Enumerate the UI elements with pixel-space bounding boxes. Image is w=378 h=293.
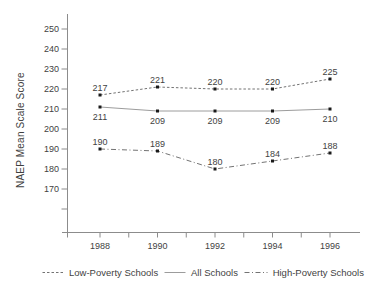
- data-point-label: 211: [93, 112, 107, 122]
- x-tick-label: 1988: [90, 241, 110, 251]
- data-point-marker: [99, 94, 102, 97]
- data-point-label: 225: [322, 67, 337, 77]
- data-point-label: 220: [207, 77, 222, 87]
- data-point-label: 220: [265, 77, 280, 87]
- data-point-marker: [214, 110, 217, 113]
- legend: Low-Poverty Schools All Schools High-Pov…: [42, 265, 364, 280]
- data-point-marker: [99, 148, 102, 151]
- data-point-marker: [329, 152, 332, 155]
- plot-area: 2502402302202102001901801701988199019921…: [0, 0, 378, 293]
- data-point-label: 189: [150, 139, 165, 149]
- x-tick-label: 1994: [262, 241, 282, 251]
- data-point-label: 190: [92, 137, 107, 147]
- y-tick-label: 180: [44, 164, 59, 174]
- legend-item-low-poverty-schools: Low-Poverty Schools: [42, 267, 158, 278]
- data-point-label: 184: [265, 149, 280, 159]
- naep-mean-scale-score-chart: 2502402302202102001901801701988199019921…: [0, 0, 378, 293]
- y-tick-label: 190: [44, 144, 59, 154]
- y-tick-label: 220: [44, 84, 59, 94]
- solid-line-sample-icon: [164, 268, 186, 277]
- data-point-marker: [271, 88, 274, 91]
- data-point-marker: [156, 86, 159, 89]
- dash-dot-line-sample-icon: [244, 268, 268, 277]
- legend-label-high-poverty: High-Poverty Schools: [273, 267, 364, 278]
- legend-item-high-poverty-schools: High-Poverty Schools: [244, 267, 364, 278]
- y-tick-label: 240: [44, 44, 59, 54]
- x-tick-label: 1990: [147, 241, 167, 251]
- data-point-label: 221: [150, 75, 165, 85]
- data-point-marker: [271, 110, 274, 113]
- x-tick-label: 1992: [205, 241, 225, 251]
- y-tick-label: 210: [44, 104, 59, 114]
- data-point-label: 217: [92, 83, 107, 93]
- legend-item-all-schools: All Schools: [164, 267, 238, 278]
- legend-label-low-poverty: Low-Poverty Schools: [69, 267, 158, 278]
- dashed-line-sample-icon: [42, 268, 64, 277]
- y-tick-label: 230: [44, 64, 59, 74]
- data-point-marker: [329, 78, 332, 81]
- y-tick-label: 200: [44, 124, 59, 134]
- data-point-marker: [214, 168, 217, 171]
- data-point-marker: [156, 150, 159, 153]
- y-tick-label: 250: [44, 24, 59, 34]
- y-tick-label: 170: [44, 184, 59, 194]
- data-point-marker: [329, 108, 332, 111]
- data-point-label: 210: [322, 114, 337, 124]
- y-axis-title: NAEP Mean Scale Score: [13, 30, 27, 230]
- data-point-label: 180: [207, 157, 222, 167]
- data-point-marker: [214, 88, 217, 91]
- data-point-marker: [156, 110, 159, 113]
- data-point-label: 188: [322, 141, 337, 151]
- data-point-label: 209: [265, 116, 280, 126]
- x-tick-label: 1996: [320, 241, 340, 251]
- data-point-marker: [99, 106, 102, 109]
- data-point-label: 209: [207, 116, 222, 126]
- data-point-marker: [271, 160, 274, 163]
- legend-label-all-schools: All Schools: [191, 267, 238, 278]
- data-point-label: 209: [150, 116, 165, 126]
